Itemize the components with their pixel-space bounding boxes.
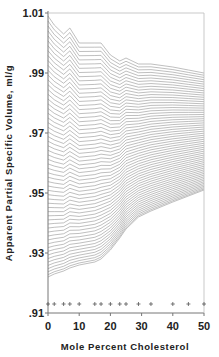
plus-marker-icon bbox=[171, 302, 175, 306]
contour-line bbox=[48, 51, 204, 89]
plus-marker-icon bbox=[149, 302, 153, 306]
contour-line bbox=[48, 147, 204, 184]
y-tick-label: 1.01 bbox=[23, 7, 44, 19]
x-tick-label: 40 bbox=[167, 320, 179, 332]
contour-line bbox=[48, 189, 204, 275]
plus-marker-icon bbox=[77, 302, 81, 306]
x-tick-label: 50 bbox=[198, 320, 210, 332]
y-tick-labels: 1.01.99.97.95.93.91 bbox=[23, 7, 48, 319]
y-tick-label: .99 bbox=[29, 67, 44, 79]
y-tick-label: .97 bbox=[29, 127, 44, 139]
x-tick-label: 0 bbox=[45, 320, 51, 332]
contour-line bbox=[48, 170, 204, 232]
plus-marker-icon bbox=[68, 302, 72, 306]
x-axis-title: Mole Percent Cholesterol bbox=[61, 341, 189, 352]
plus-marker-icon bbox=[93, 302, 97, 306]
contour-lines bbox=[48, 16, 204, 277]
plus-marker-icon bbox=[202, 302, 206, 306]
plus-marker-icon bbox=[108, 302, 112, 306]
contour-line bbox=[48, 190, 204, 277]
plus-marker-icon bbox=[136, 302, 140, 306]
contour-line bbox=[48, 129, 204, 149]
x-tick-labels: 01020304050 bbox=[45, 313, 210, 332]
plus-marker-icon bbox=[186, 302, 190, 306]
x-tick-label: 20 bbox=[104, 320, 116, 332]
y-tick-label: .91 bbox=[29, 307, 44, 319]
y-tick-label: .95 bbox=[29, 187, 44, 199]
x-tick-label: 10 bbox=[73, 320, 85, 332]
contour-line bbox=[48, 118, 204, 131]
chart: 1.01.99.97.95.93.91 01020304050 Mole Per… bbox=[0, 0, 219, 357]
plus-marker-icon bbox=[62, 302, 66, 306]
y-tick-label: .93 bbox=[29, 247, 44, 259]
y-axis-title: Apparent Partial Specific Volume, ml/g bbox=[3, 65, 14, 261]
plus-marker-icon bbox=[52, 302, 56, 306]
plus-marker-icon bbox=[46, 302, 50, 306]
contour-line bbox=[48, 56, 204, 91]
sample-markers bbox=[46, 302, 206, 306]
plus-marker-icon bbox=[124, 302, 128, 306]
x-tick-label: 30 bbox=[135, 320, 147, 332]
plus-marker-icon bbox=[118, 302, 122, 306]
plus-marker-icon bbox=[99, 302, 103, 306]
contour-line bbox=[48, 31, 204, 80]
contour-line bbox=[48, 26, 204, 77]
contour-line bbox=[48, 172, 204, 236]
